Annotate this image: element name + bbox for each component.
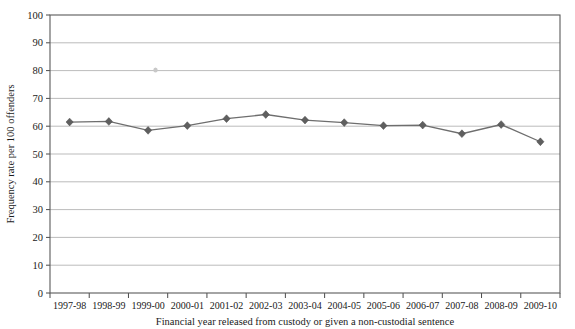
x-tick-label: 2000-01	[171, 300, 204, 311]
x-axis-title: Financial year released from custody or …	[156, 316, 455, 327]
x-tick-label: 2007-08	[445, 300, 478, 311]
x-tick-label: 1997-98	[53, 300, 86, 311]
scan-speck	[153, 67, 157, 72]
x-tick-label: 1999-00	[131, 300, 164, 311]
x-tick-label: 2002-03	[249, 300, 282, 311]
x-tick-label: 2004-05	[328, 300, 361, 311]
x-tick-label: 2008-09	[484, 300, 517, 311]
y-tick-label: 50	[33, 149, 44, 160]
x-tick-label: 2003-04	[288, 300, 321, 311]
frequency-rate-line-chart: 0102030405060708090100 1997-981998-99199…	[0, 0, 575, 329]
x-tick-label: 1998-99	[92, 300, 125, 311]
y-tick-label: 30	[33, 204, 44, 215]
y-tick-label: 100	[27, 10, 43, 21]
y-axis-title: Frequency rate per 100 offenders	[5, 84, 16, 223]
y-tick-label: 20	[33, 232, 44, 243]
y-tick-label: 0	[38, 288, 43, 299]
x-tick-label: 2005-06	[367, 300, 400, 311]
x-tick-label: 2006-07	[406, 300, 439, 311]
x-tick-label: 2009-10	[524, 300, 557, 311]
chart-container: 0102030405060708090100 1997-981998-99199…	[0, 0, 575, 329]
y-tick-label: 60	[33, 121, 44, 132]
y-tick-label: 90	[33, 37, 44, 48]
y-tick-label: 10	[33, 260, 44, 271]
chart-background	[0, 0, 575, 329]
y-tick-label: 70	[33, 93, 44, 104]
y-tick-label: 80	[33, 65, 44, 76]
y-tick-label: 40	[33, 176, 44, 187]
x-tick-label: 2001-02	[210, 300, 243, 311]
